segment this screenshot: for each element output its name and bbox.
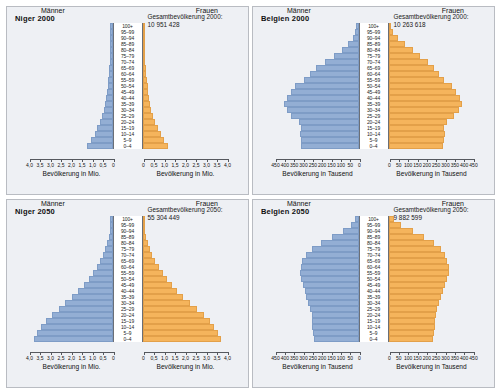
female-bar-cell: [143, 143, 227, 149]
axis-tick-label: 50: [396, 162, 402, 168]
axis-tick-label: 250: [309, 355, 317, 361]
axis-tick-label: 3,0: [47, 355, 54, 361]
axis-tick-label: 100: [404, 355, 412, 361]
female-bar: [389, 336, 433, 343]
axis-title-left: Bevölkerung in Mio.: [43, 363, 101, 370]
axis-tick-label: 2,5: [193, 355, 200, 361]
axis-title-left: Bevölkerung in Tausend: [282, 363, 352, 370]
panel-belgien-2000: Belgien 2000 Gesamtbevölkerung 2000: 10 …: [252, 6, 495, 195]
axis-tick-label: 2,5: [193, 162, 200, 168]
female-side-label: Frauen: [442, 200, 464, 207]
pyramid-bars: 100+95–9990–9485–8980–8475–7970–7465–696…: [253, 23, 494, 159]
axis-tick-label: 3,5: [214, 355, 221, 361]
female-bar-cell: [143, 336, 227, 342]
axis-tick-label: 350: [290, 162, 298, 168]
axis-tick-label: 150: [327, 162, 335, 168]
age-group-label: 0–4: [359, 336, 389, 342]
axis-tick-label: 200: [318, 355, 326, 361]
axis-title-right: Bevölkerung in Tausend: [396, 170, 466, 177]
axis-tick-label: 0,5: [100, 162, 107, 168]
axis-tick-label: 0,5: [151, 162, 158, 168]
panel-niger-2050: Niger 2050 Gesamtbevölkerung 2050: 55 30…: [6, 199, 249, 388]
panel-title: Niger 2000: [15, 14, 55, 23]
axis-title-left: Bevölkerung in Tausend: [282, 170, 352, 177]
axis-title-right: Bevölkerung in Mio.: [157, 170, 215, 177]
axis-tick-label: 2,0: [182, 162, 189, 168]
pyramid-bars: 100+95–9990–9485–8980–8475–7970–7465–696…: [7, 216, 248, 352]
axis-tick-label: 4,0: [224, 162, 231, 168]
female-side-label: Frauen: [196, 7, 218, 14]
axis-tick-label: 2,0: [182, 355, 189, 361]
female-bar: [143, 143, 168, 150]
axis-tick-label: 2,0: [68, 162, 75, 168]
pyramid-row: 0–4: [7, 143, 248, 149]
axis-tick-label: 0: [388, 355, 391, 361]
axis-tick-label: 3,0: [47, 162, 54, 168]
pyramid-bars: 100+95–9990–9485–8980–8475–7970–7465–696…: [7, 23, 248, 159]
female-side-label: Frauen: [196, 200, 218, 207]
female-bar: [143, 336, 221, 343]
axis-tick-label: 300: [299, 355, 307, 361]
pyramid-axes: 4,04,03,53,53,03,02,52,52,02,01,51,51,01…: [7, 159, 248, 193]
panel-title: Belgien 2050: [261, 207, 309, 216]
axis-tick-label: 3,5: [37, 355, 44, 361]
axis-tick-label: 100: [337, 162, 345, 168]
axis-tick-label: 150: [413, 355, 421, 361]
axis-tick-label: 300: [441, 355, 449, 361]
female-bar-cell: [389, 336, 473, 342]
male-side-label: Männer: [287, 200, 311, 207]
male-bar-cell: [29, 336, 113, 342]
axis-tick-label: 150: [413, 162, 421, 168]
axis-tick-label: 0: [142, 162, 145, 168]
age-group-label: 0–4: [113, 336, 143, 342]
axis-tick-label: 4,0: [26, 162, 33, 168]
axis-tick-label: 50: [347, 162, 353, 168]
female-bar: [389, 143, 444, 150]
axis-line-right: [390, 159, 474, 160]
axis-tick-label: 1,0: [89, 162, 96, 168]
axis-tick-label: 200: [318, 162, 326, 168]
figure-sheet: Niger 2000 Gesamtbevölkerung 2000: 10 95…: [0, 0, 495, 391]
axis-tick-label: 250: [309, 162, 317, 168]
axis-tick-label: 350: [290, 355, 298, 361]
female-bar-cell: [389, 143, 473, 149]
axis-tick-label: 400: [460, 355, 468, 361]
age-group-label: 0–4: [113, 143, 143, 149]
male-bar: [314, 336, 359, 343]
axis-tick-label: 1,5: [79, 162, 86, 168]
axis-tick-label: 0,5: [151, 355, 158, 361]
male-bar-cell: [275, 336, 359, 342]
axis-tick-label: 350: [451, 162, 459, 168]
male-side-label: Männer: [41, 200, 65, 207]
axis-tick-label: 400: [281, 355, 289, 361]
axis-tick-label: 200: [423, 355, 431, 361]
axis-tick-label: 0: [142, 355, 145, 361]
axis-tick-label: 3,0: [203, 162, 210, 168]
axis-tick-label: 100: [337, 355, 345, 361]
axis-tick-label: 450: [271, 162, 279, 168]
axis-tick-label: 0: [388, 162, 391, 168]
axis-tick-label: 50: [347, 355, 353, 361]
age-group-label: 0–4: [359, 143, 389, 149]
male-bar: [87, 143, 112, 150]
axis-line-left: [276, 352, 360, 353]
axis-tick-label: 100: [404, 162, 412, 168]
axis-tick-label: 1,0: [161, 355, 168, 361]
pyramid-axes: 4504504004003503503003002502502002001501…: [253, 352, 494, 386]
pyramid-row: 0–4: [253, 336, 494, 342]
axis-title-right: Bevölkerung in Tausend: [396, 363, 466, 370]
pyramid-row: 0–4: [7, 336, 248, 342]
axis-tick-label: 250: [432, 355, 440, 361]
axis-tick-label: 50: [396, 355, 402, 361]
axis-tick-label: 2,0: [68, 355, 75, 361]
axis-tick-label: 4,0: [224, 355, 231, 361]
pyramid-grid: Niger 2000 Gesamtbevölkerung 2000: 10 95…: [6, 6, 491, 388]
axis-tick-label: 400: [460, 162, 468, 168]
pyramid-axes: 4,04,03,53,53,03,02,52,52,02,01,51,51,01…: [7, 352, 248, 386]
axis-tick-label: 0: [112, 355, 115, 361]
axis-tick-label: 0: [358, 355, 361, 361]
axis-tick-label: 3,0: [203, 355, 210, 361]
axis-tick-label: 450: [469, 355, 477, 361]
axis-tick-label: 3,5: [37, 162, 44, 168]
male-bar: [34, 336, 112, 343]
